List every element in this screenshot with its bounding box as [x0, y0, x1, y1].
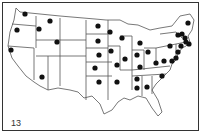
state-marker-dot: [95, 38, 100, 43]
state-marker-dot: [173, 55, 178, 60]
state-marker-dot: [137, 64, 142, 69]
state-marker-dot: [137, 40, 142, 45]
state-marker-dot: [107, 29, 112, 34]
state-marker-dot: [108, 48, 113, 53]
state-marker-dot: [114, 62, 119, 67]
state-marker-dot: [161, 58, 166, 63]
state-marker-dot: [39, 74, 44, 79]
state-marker-dot: [122, 56, 127, 61]
state-marker-dot: [22, 11, 27, 16]
state-marker-dot: [153, 60, 158, 65]
state-marker-dot: [119, 35, 124, 40]
state-marker-dot: [114, 79, 119, 84]
state-marker-dot: [14, 27, 19, 32]
state-marker-dot: [92, 65, 97, 70]
state-marker-dot: [182, 35, 187, 40]
state-marker-dot: [175, 49, 180, 54]
state-marker-dot: [159, 73, 164, 78]
state-marker-dot: [134, 85, 139, 90]
state-marker-dot: [47, 18, 52, 23]
us-map: [0, 0, 203, 135]
state-marker-dot: [8, 47, 13, 52]
state-marker-dot: [96, 79, 101, 84]
state-marker-dot: [185, 20, 190, 25]
state-marker-dot: [54, 39, 59, 44]
state-marker-dot: [144, 84, 149, 89]
state-marker-dot: [134, 76, 139, 81]
state-marker-dot: [36, 26, 41, 31]
figure-label: 13: [11, 118, 21, 128]
state-marker-dot: [96, 52, 101, 57]
state-marker-dot: [167, 43, 172, 48]
state-marker-dot: [145, 49, 150, 54]
state-marker-dot: [134, 52, 139, 57]
state-marker-dot: [178, 43, 183, 48]
state-marker-dot: [95, 23, 100, 28]
